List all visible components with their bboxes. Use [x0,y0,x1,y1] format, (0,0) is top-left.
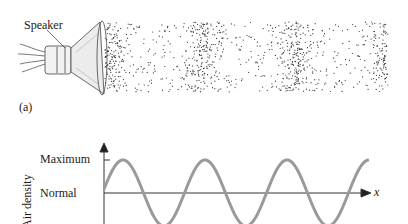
speaker-wires-icon [18,44,45,72]
x-axis-arrow-icon [361,189,371,197]
tick-label-maximum: Maximum [40,152,90,167]
tick-label-normal: Normal [40,186,77,201]
y-axis-arrow-icon [100,143,108,152]
x-axis-label: x [374,185,379,200]
panel-label-a: (a) [19,100,32,115]
y-axis-label: Air density [20,174,35,224]
air-molecules-dots [104,21,388,92]
air-density-wave [104,160,369,224]
speaker-label: Speaker [24,18,63,33]
